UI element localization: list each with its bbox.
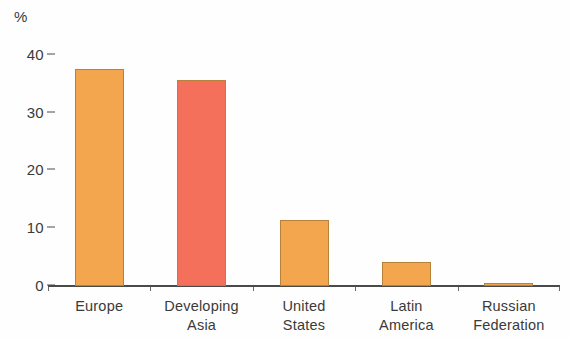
bar [280, 220, 329, 286]
x-axis-category-label: UnitedStates [253, 297, 355, 335]
x-axis-end-tick-mark [48, 287, 49, 291]
x-axis-category-label-line: States [253, 316, 355, 335]
bar [382, 262, 431, 286]
x-axis-tick-mark [150, 287, 151, 291]
y-axis-tick-label: 30 [0, 103, 44, 120]
plot-area [48, 40, 560, 286]
x-axis-category-label-line: Russian [458, 297, 560, 316]
bar [177, 80, 226, 286]
x-axis-category-label-line: Latin [355, 297, 457, 316]
x-axis-category-label: RussianFederation [458, 297, 560, 335]
x-axis-category-label: LatinAmerica [355, 297, 457, 335]
x-axis-category-label-line: Developing [150, 297, 252, 316]
bar [484, 283, 533, 286]
y-axis-tick-label: 40 [0, 45, 44, 62]
y-axis-tick-label: 10 [0, 219, 44, 236]
x-axis-category-label-line: Asia [150, 316, 252, 335]
bar-chart: % 010203040 EuropeDevelopingAsiaUnitedSt… [0, 0, 570, 339]
x-axis-category-label-line: America [355, 316, 457, 335]
bar [75, 69, 124, 286]
x-axis-category-label: DevelopingAsia [150, 297, 252, 335]
y-axis-tick-label: 0 [0, 277, 44, 294]
x-axis-category-label: Europe [48, 297, 150, 316]
x-axis-category-label-line: United [253, 297, 355, 316]
x-axis-end-tick-mark [559, 287, 560, 291]
x-axis-tick-mark [458, 287, 459, 291]
x-axis-category-label-line: Europe [48, 297, 150, 316]
x-axis-tick-mark [253, 287, 254, 291]
y-axis-tick-label: 20 [0, 161, 44, 178]
x-axis-tick-mark [355, 287, 356, 291]
x-axis-category-label-line: Federation [458, 316, 560, 335]
y-axis-unit-label: % [14, 8, 28, 25]
